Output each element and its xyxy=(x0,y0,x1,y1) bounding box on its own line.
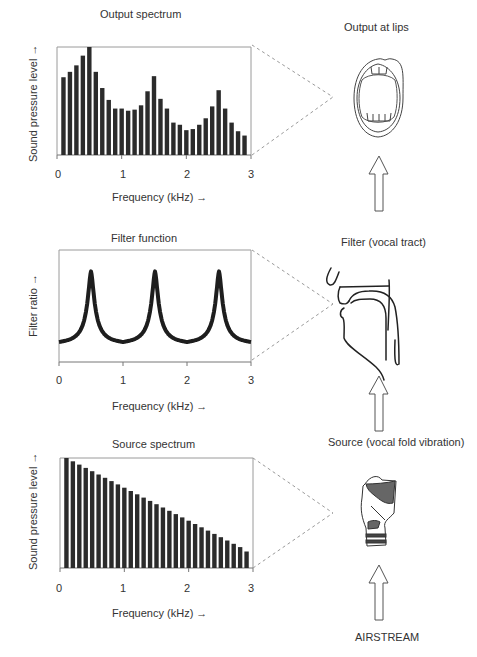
up-arrow-icon-bottom xyxy=(369,565,388,620)
dashed-connector-output xyxy=(252,45,333,155)
illustrations xyxy=(0,0,477,657)
dashed-connector-source xyxy=(253,458,333,568)
up-arrow-icon-top xyxy=(369,156,388,211)
up-arrow-icon-middle xyxy=(369,376,388,431)
dashed-connector-filter xyxy=(252,250,333,360)
vocal-tract-icon xyxy=(327,268,399,380)
open-mouth-icon xyxy=(354,59,403,137)
larynx-icon xyxy=(361,477,396,546)
